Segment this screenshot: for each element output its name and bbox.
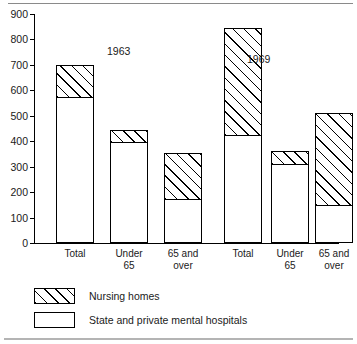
x-axis-line <box>34 243 339 244</box>
bar-1969-Under-65 <box>271 151 309 243</box>
y-axis-tick-label: 900 <box>2 9 28 20</box>
chart-legend: Nursing homesState and private mental ho… <box>34 286 334 334</box>
bar-segment-nursing-homes <box>315 113 353 207</box>
legend-item: Nursing homes <box>34 286 334 306</box>
x-axis-label: 65 and over <box>306 248 357 271</box>
y-axis-tick <box>30 116 34 117</box>
y-axis-tick <box>30 14 34 15</box>
bar-1963-Total <box>56 65 94 243</box>
y-axis-tick-label: 100 <box>2 212 28 223</box>
y-axis-tick-label: 400 <box>2 136 28 147</box>
legend-label: Nursing homes <box>89 291 160 302</box>
y-axis-tick <box>30 39 34 40</box>
y-axis-tick-label: 600 <box>2 85 28 96</box>
legend-label: State and private mental hospitals <box>89 315 247 326</box>
bar-segment-mental-hospitals <box>224 135 262 243</box>
y-axis-tick <box>30 243 34 244</box>
y-axis-tick <box>30 90 34 91</box>
bar-segment-mental-hospitals <box>110 142 148 243</box>
bar-1963-Under-65 <box>110 130 148 243</box>
y-axis-tick <box>30 65 34 66</box>
chart-figure: 0100200300400500600700800900 TotalUnder … <box>0 0 357 344</box>
bar-1969-65-and-over <box>315 113 353 243</box>
y-axis-tick-label: 800 <box>2 34 28 45</box>
y-axis-tick <box>30 167 34 168</box>
bar-1963-65-and-over <box>164 153 202 243</box>
bar-segment-nursing-homes <box>110 130 148 143</box>
bar-segment-nursing-homes <box>56 65 94 98</box>
y-axis-tick-label: 500 <box>2 111 28 122</box>
x-axis-label: 65 and over <box>155 248 211 271</box>
figure-bottom-border <box>4 338 353 340</box>
y-axis-tick-label: 200 <box>2 187 28 198</box>
y-axis-tick-label: 700 <box>2 60 28 71</box>
bar-segment-mental-hospitals <box>56 97 94 243</box>
bar-segment-nursing-homes <box>271 151 309 165</box>
legend-item: State and private mental hospitals <box>34 310 334 330</box>
y-axis-tick-label: 0 <box>2 238 28 249</box>
y-axis-tick <box>30 141 34 142</box>
bar-segment-mental-hospitals <box>164 199 202 243</box>
group-label-1963: 1963 <box>107 46 130 57</box>
y-axis-line <box>34 14 35 244</box>
y-axis-tick <box>30 192 34 193</box>
y-axis-tick <box>30 218 34 219</box>
y-axis-tick-label: 300 <box>2 161 28 172</box>
figure-top-border <box>8 3 353 4</box>
bar-segment-mental-hospitals <box>315 205 353 243</box>
legend-swatch-hatch <box>34 288 75 304</box>
legend-swatch-solid <box>34 312 75 328</box>
bar-segment-mental-hospitals <box>271 164 309 243</box>
bar-segment-nursing-homes <box>224 28 262 136</box>
group-label-1969: 1969 <box>247 54 270 65</box>
x-axis-label: Total <box>47 248 103 260</box>
x-axis-label: Under 65 <box>101 248 157 271</box>
bar-segment-nursing-homes <box>164 153 202 201</box>
plot-area: 0100200300400500600700800900 TotalUnder … <box>34 14 339 244</box>
